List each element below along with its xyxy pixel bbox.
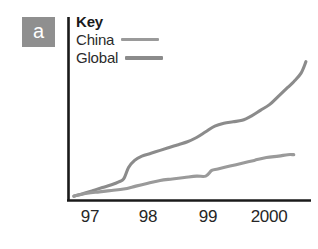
x-tick-label-98: 98 [139,207,157,227]
x-tick-label-99: 99 [199,207,217,227]
x-tick-label-97: 97 [81,207,99,227]
x-tick-label-2000: 2000 [251,207,288,227]
series-line-china [74,155,294,197]
figure-panel: a Key China Global 97 98 99 2000 [0,0,318,249]
